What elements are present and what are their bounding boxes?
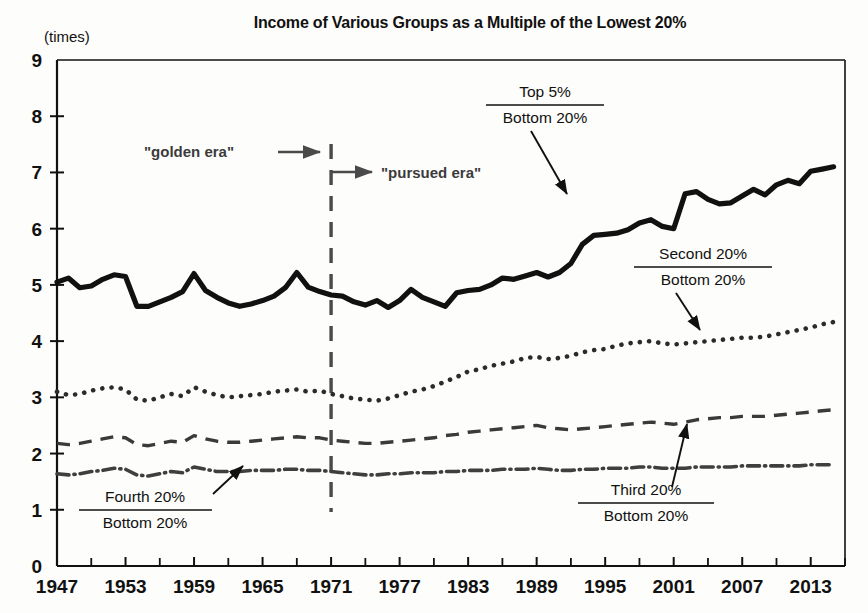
svg-text:1953: 1953 (104, 576, 146, 597)
svg-text:1959: 1959 (173, 576, 215, 597)
second20-numerator: Second 20% (659, 245, 747, 262)
top5-denominator: Bottom 20% (503, 109, 588, 126)
svg-text:3: 3 (31, 387, 42, 408)
x-axis-tick-labels: 1947195319591965197119771983198919952001… (36, 576, 832, 597)
series-line (57, 410, 834, 446)
svg-text:1971: 1971 (310, 576, 353, 597)
series-line (57, 465, 834, 476)
pursued-era-label: "pursued era" (381, 164, 481, 181)
fourth20-denominator: Bottom 20% (103, 514, 188, 531)
top5-arrow (531, 131, 567, 194)
annotation-second20: Second 20% Bottom 20% (634, 245, 772, 330)
third20-arrow (672, 424, 687, 487)
annotation-golden-era: "golden era" (144, 143, 320, 160)
svg-text:0: 0 (31, 556, 42, 577)
svg-text:2013: 2013 (790, 576, 832, 597)
chart-container: Income of Various Groups as a Multiple o… (0, 0, 868, 613)
third20-numerator: Third 20% (611, 481, 682, 498)
annotation-pursued-era: "pursued era" (332, 164, 481, 181)
data-series-layer (57, 167, 834, 476)
x-axis-ticks (57, 557, 845, 566)
svg-text:9: 9 (31, 50, 42, 71)
fourth20-numerator: Fourth 20% (105, 488, 185, 505)
chart-svg: 0123456789 19471953195919651971197719831… (0, 0, 868, 613)
svg-text:8: 8 (31, 106, 42, 127)
annotation-top5: Top 5% Bottom 20% (486, 83, 604, 194)
series-line (57, 322, 834, 401)
annotation-third20: Third 20% Bottom 20% (578, 424, 714, 524)
svg-text:1: 1 (31, 500, 42, 521)
svg-text:6: 6 (31, 219, 42, 240)
svg-text:4: 4 (31, 331, 42, 352)
svg-text:1989: 1989 (516, 576, 558, 597)
second20-arrow (676, 293, 700, 330)
svg-text:7: 7 (31, 162, 42, 183)
svg-text:1983: 1983 (447, 576, 489, 597)
top5-numerator: Top 5% (519, 83, 571, 100)
svg-text:2: 2 (31, 444, 42, 465)
svg-text:2007: 2007 (721, 576, 763, 597)
annotation-fourth20: Fourth 20% Bottom 20% (79, 466, 243, 531)
third20-denominator: Bottom 20% (604, 507, 689, 524)
svg-text:5: 5 (31, 275, 42, 296)
svg-text:1977: 1977 (378, 576, 420, 597)
svg-text:1995: 1995 (584, 576, 627, 597)
svg-text:2001: 2001 (653, 576, 696, 597)
svg-text:1947: 1947 (36, 576, 78, 597)
y-axis-tick-labels: 0123456789 (31, 50, 42, 577)
golden-era-label: "golden era" (144, 143, 234, 160)
second20-denominator: Bottom 20% (661, 271, 746, 288)
svg-text:1965: 1965 (241, 576, 284, 597)
